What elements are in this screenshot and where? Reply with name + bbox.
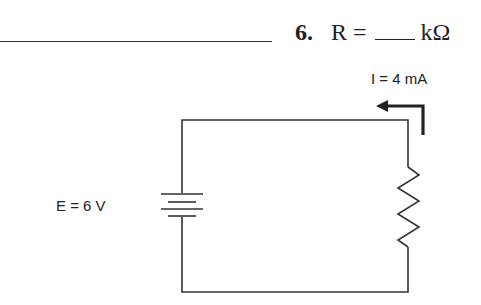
resistor-icon bbox=[398, 167, 419, 247]
bottom-wire bbox=[182, 217, 408, 292]
circuit-diagram bbox=[0, 0, 481, 305]
battery-icon bbox=[161, 194, 203, 216]
top-wire bbox=[182, 120, 408, 193]
wires bbox=[182, 120, 408, 292]
current-arrow-icon bbox=[376, 100, 423, 135]
